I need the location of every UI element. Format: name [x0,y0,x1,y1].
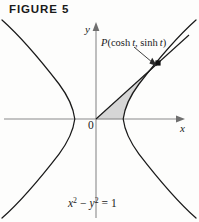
caption-equation: x2−y2=1 [67,196,117,210]
equation-rhs: 1 [111,197,117,209]
point-p-leader-line [134,47,153,63]
annotation-close-paren: ) [163,37,167,49]
annotation-sinh: sinh [140,37,158,48]
figure-container: FIGURE 5 0 x y P(cosht,sinht) [0,0,199,222]
svg-text:P(cosht,sinht): P(cosht,sinht) [100,37,167,49]
y-axis-label: y [84,23,90,35]
y-axis-arrowhead [93,22,100,31]
point-p-annotation: P(cosht,sinht) [100,37,167,49]
annotation-comma: , [135,37,138,48]
svg-text:x2−y2=1: x2−y2=1 [67,196,117,210]
hyperbola-plot: 0 x y P(cosht,sinht) x2−y2=1 [0,0,199,222]
origin-label: 0 [88,119,94,131]
equation-minus: − [80,197,87,209]
equation-equals: = [102,197,109,209]
equation-y-exponent: 2 [95,196,99,205]
equation-x-exponent: 2 [73,196,77,205]
x-axis-label: x [179,122,185,134]
annotation-cosh: cosh [111,37,131,48]
